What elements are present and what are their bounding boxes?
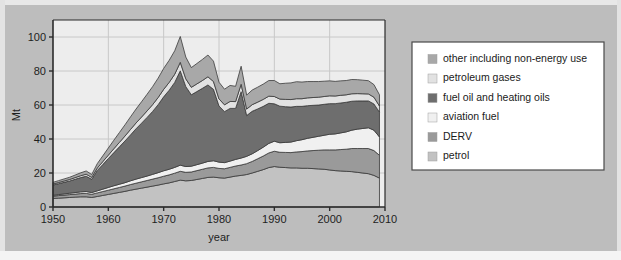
x-tick-label: 2000: [317, 213, 341, 225]
y-tick-label: 80: [34, 65, 46, 77]
figure-root: 020406080100 195019601970198019902000201…: [0, 0, 621, 260]
y-tick-label: 100: [28, 31, 46, 43]
legend-swatch: [428, 133, 437, 142]
legend-label: other including non-energy use: [443, 52, 587, 64]
y-tick-label: 40: [34, 133, 46, 145]
legend-label: aviation fuel: [443, 110, 499, 122]
legend-swatch: [428, 74, 437, 83]
x-tick-label: 1950: [41, 213, 65, 225]
legend-swatch: [428, 152, 437, 161]
y-tick-label: 20: [34, 167, 46, 179]
y-tick-labels: 020406080100: [28, 31, 46, 213]
x-axis-title: year: [208, 231, 230, 243]
legend: other including non-energy usepetroleum …: [412, 42, 604, 170]
x-tick-label: 1990: [262, 213, 286, 225]
legend-swatch: [428, 94, 437, 103]
legend-swatch: [428, 55, 437, 64]
plot-area: [49, 20, 385, 211]
x-tick-label: 1970: [151, 213, 175, 225]
x-tick-labels: 1950196019701980199020002010: [41, 213, 397, 225]
stacked-area-chart: 020406080100 195019601970198019902000201…: [0, 0, 621, 260]
x-tick-label: 2010: [373, 213, 397, 225]
y-tick-label: 0: [40, 201, 46, 213]
legend-label: fuel oil and heating oils: [443, 91, 550, 103]
x-tick-label: 1980: [207, 213, 231, 225]
x-tick-label: 1960: [96, 213, 120, 225]
legend-swatch: [428, 113, 437, 122]
legend-label: petrol: [443, 149, 469, 161]
y-axis-title: Mt: [10, 109, 22, 121]
legend-label: petroleum gases: [443, 71, 521, 83]
legend-label: DERV: [443, 130, 472, 142]
y-tick-label: 60: [34, 99, 46, 111]
